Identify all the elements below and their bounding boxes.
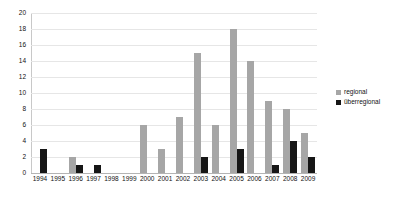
bar-chart: 02468101214161820 1994199519961997199819… [0, 0, 404, 205]
bar-2009-ueberregional [308, 157, 315, 173]
bar-group [301, 13, 315, 173]
y-tick-label: 0 [0, 170, 26, 177]
bar-2003-regional [194, 53, 201, 173]
bar-1997-ueberregional [94, 165, 101, 173]
legend-swatch-icon-regional [336, 90, 341, 95]
bar-group [140, 13, 154, 173]
bar-group [104, 13, 118, 173]
y-tick-label: 20 [0, 10, 26, 17]
bar-group [122, 13, 136, 173]
bar-2005-regional [230, 29, 237, 173]
y-tick-label: 2 [0, 154, 26, 161]
bar-group [69, 13, 83, 173]
bar-group [33, 13, 47, 173]
bar-2005-ueberregional [237, 149, 244, 173]
bar-2008-ueberregional [290, 141, 297, 173]
bar-group [283, 13, 297, 173]
bar-2004-regional [212, 125, 219, 173]
bar-2006-regional [247, 61, 254, 173]
bar-2002-regional [176, 117, 183, 173]
y-tick-label: 14 [0, 58, 26, 65]
bar-2001-regional [158, 149, 165, 173]
legend-swatch-icon-ueberregional [336, 100, 341, 105]
y-tick-label: 8 [0, 106, 26, 113]
bar-group [176, 13, 190, 173]
bar-1994-ueberregional [40, 149, 47, 173]
plot-area [31, 13, 317, 173]
y-tick-label: 12 [0, 74, 26, 81]
bar-group [158, 13, 172, 173]
legend-item-ueberregional: überregional [336, 97, 380, 107]
bar-group [265, 13, 279, 173]
bar-2007-ueberregional [272, 165, 279, 173]
legend-label-regional: regional [344, 89, 367, 96]
bar-group [212, 13, 226, 173]
y-tick-label: 4 [0, 138, 26, 145]
legend-item-regional: regional [336, 87, 380, 97]
bar-group [194, 13, 208, 173]
x-tick-label: 2009 [295, 176, 321, 183]
bar-2008-regional [283, 109, 290, 173]
bar-group [87, 13, 101, 173]
bar-2007-regional [265, 101, 272, 173]
bar-2003-ueberregional [201, 157, 208, 173]
chart-legend: regional überregional [336, 87, 380, 107]
bar-2000-regional [140, 125, 147, 173]
bar-1996-ueberregional [76, 165, 83, 173]
y-tick-label: 16 [0, 42, 26, 49]
bar-group [247, 13, 261, 173]
bar-group [51, 13, 65, 173]
y-tick-label: 10 [0, 90, 26, 97]
y-tick-label: 18 [0, 26, 26, 33]
bar-group [230, 13, 244, 173]
bar-1996-regional [69, 157, 76, 173]
gridline-0 [31, 173, 317, 174]
x-axis-labels: 1994199519961997199819992000200120022003… [31, 176, 317, 192]
bar-2009-regional [301, 133, 308, 173]
y-tick-label: 6 [0, 122, 26, 129]
legend-label-ueberregional: überregional [344, 99, 380, 106]
